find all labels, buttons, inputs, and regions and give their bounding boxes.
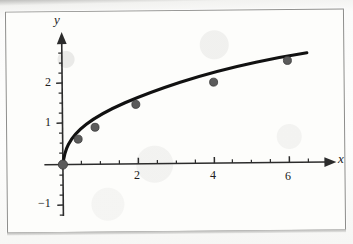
graph-canvas <box>0 0 353 244</box>
x-tick-label-4: 4 <box>210 168 216 183</box>
data-point <box>283 56 291 64</box>
data-point <box>91 123 99 131</box>
y-axis-label: y <box>54 12 60 28</box>
data-points <box>57 56 292 169</box>
x-axis-arrowhead <box>324 157 336 167</box>
x-tick-label-2: 2 <box>134 168 140 183</box>
sqrt-curve <box>62 53 308 165</box>
scanned-page-background: y x 2 4 6 2 1 −1 <box>0 0 353 244</box>
y-tick-label-neg1: −1 <box>38 196 51 211</box>
data-point <box>132 100 140 108</box>
y-axis-arrowhead <box>57 32 67 44</box>
data-point <box>210 78 218 86</box>
x-axis <box>44 156 336 170</box>
x-axis-label: x <box>338 151 344 167</box>
y-tick-label-2: 2 <box>45 75 51 90</box>
data-point <box>74 135 82 143</box>
data-point <box>58 160 67 169</box>
x-tick-label-6: 6 <box>285 169 291 184</box>
y-axis <box>56 32 69 216</box>
y-tick-label-1: 1 <box>45 115 51 130</box>
